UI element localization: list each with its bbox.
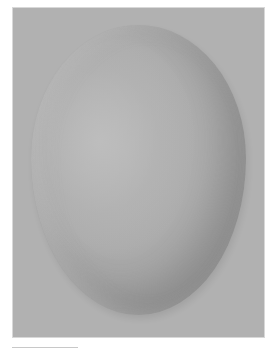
- caption-divider: [12, 347, 78, 348]
- egg-shape: [31, 25, 246, 315]
- image-frame: [12, 7, 265, 338]
